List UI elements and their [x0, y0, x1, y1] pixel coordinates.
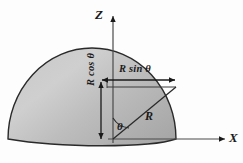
x-axis-label: X: [229, 131, 238, 144]
vertical-projection-label: R cos θ: [86, 53, 97, 86]
angle-theta-label: θ: [117, 121, 123, 132]
z-axis-label: Z: [95, 8, 103, 21]
horizontal-projection-label: R sin θ: [119, 64, 151, 75]
radius-label: R: [145, 110, 153, 122]
diagram-canvas: [0, 0, 243, 163]
geometry-figure: Z X R sin θ R cos θ R θ: [0, 0, 243, 163]
